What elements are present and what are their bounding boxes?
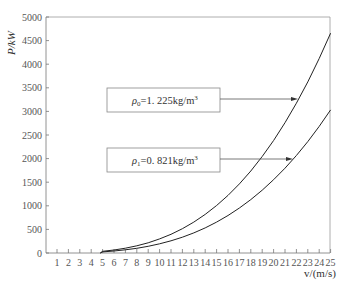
- x-tick-label: 14: [200, 257, 210, 268]
- x-tick-label: 6: [112, 257, 117, 268]
- x-tick-label: 20: [269, 257, 279, 268]
- x-tick-label: 18: [246, 257, 256, 268]
- y-tick-label: 4500: [22, 35, 42, 46]
- x-tick-label: 8: [134, 257, 139, 268]
- x-tick-label: 19: [257, 257, 267, 268]
- x-tick-label: 17: [234, 257, 244, 268]
- y-tick-label: 1000: [22, 200, 42, 211]
- y-tick-label: 2500: [22, 130, 42, 141]
- x-axis-title: v/(m/s): [304, 267, 336, 280]
- x-tick-label: 11: [166, 257, 176, 268]
- x-tick-label: 12: [177, 257, 187, 268]
- x-tick-label: 9: [146, 257, 151, 268]
- x-tick-label: 16: [223, 257, 233, 268]
- x-tick-label: 10: [155, 257, 165, 268]
- curve-series-1: [100, 110, 330, 253]
- x-tick-label: 22: [291, 257, 301, 268]
- x-tick-label: 21: [280, 257, 290, 268]
- curve-series-0: [100, 33, 330, 253]
- x-tick-label: 5: [100, 257, 105, 268]
- annotation-label: ρ1=0. 821kg/m3: [131, 154, 198, 168]
- x-tick-label: 3: [77, 257, 82, 268]
- y-tick-label: 2000: [22, 153, 42, 164]
- plot-frame: [46, 17, 330, 253]
- x-axis: 1234567891011121314151617181920212223242…: [55, 249, 336, 268]
- y-tick-label: 3000: [22, 106, 42, 117]
- power-curve-chart: 0500100015002000250030003500400045005000…: [0, 0, 346, 287]
- y-axis: 0500100015002000250030003500400045005000: [22, 12, 49, 259]
- y-tick-label: 4000: [22, 59, 42, 70]
- x-tick-label: 4: [89, 257, 94, 268]
- y-tick-label: 5000: [22, 12, 42, 23]
- x-tick-label: 2: [66, 257, 71, 268]
- y-tick-label: 0: [37, 248, 42, 259]
- x-tick-label: 15: [212, 257, 222, 268]
- annotation-rho0: ρ0=1. 225kg/m3: [107, 88, 298, 112]
- annotation-label: ρ0=1. 225kg/m3: [131, 94, 198, 108]
- arrow-head-icon: [291, 97, 298, 101]
- y-tick-label: 500: [27, 224, 42, 235]
- curves: [100, 33, 330, 253]
- x-tick-label: 7: [123, 257, 128, 268]
- y-axis-title: P/kW: [5, 30, 17, 56]
- y-tick-label: 1500: [22, 177, 42, 188]
- x-tick-label: 1: [55, 257, 60, 268]
- y-tick-label: 3500: [22, 82, 42, 93]
- x-tick-label: 13: [189, 257, 199, 268]
